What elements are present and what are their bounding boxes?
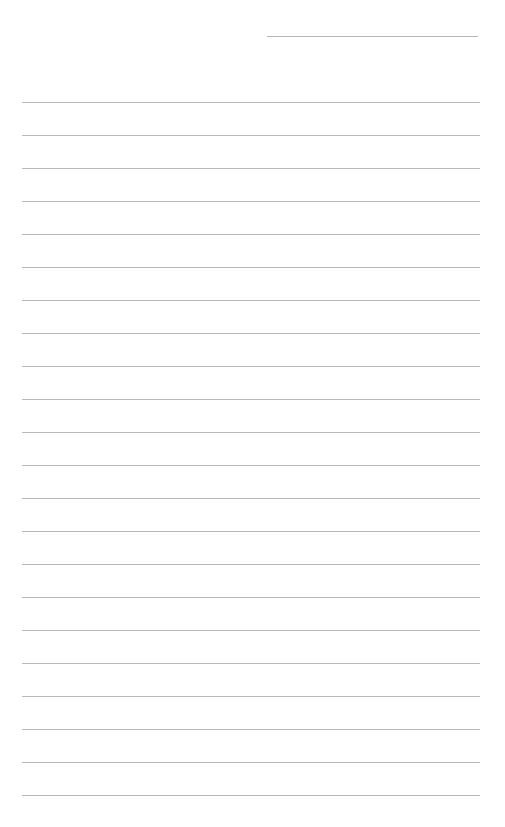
ruled-line <box>22 696 480 697</box>
ruled-line <box>22 663 480 664</box>
header-write-line <box>267 36 478 37</box>
ruled-line <box>22 201 480 202</box>
ruled-line <box>22 366 480 367</box>
ruled-line <box>22 399 480 400</box>
ruled-line <box>22 498 480 499</box>
ruled-line <box>22 234 480 235</box>
ruled-line <box>22 597 480 598</box>
ruled-line <box>22 531 480 532</box>
ruled-line <box>22 267 480 268</box>
ruled-line <box>22 102 480 103</box>
ruled-line <box>22 465 480 466</box>
ruled-line <box>22 729 480 730</box>
ruled-line <box>22 135 480 136</box>
ruled-line <box>22 333 480 334</box>
ruled-line <box>22 168 480 169</box>
ruled-line <box>22 795 480 796</box>
ruled-line <box>22 300 480 301</box>
ruled-line <box>22 630 480 631</box>
ruled-line <box>22 432 480 433</box>
ruled-line <box>22 564 480 565</box>
ruled-line <box>22 762 480 763</box>
